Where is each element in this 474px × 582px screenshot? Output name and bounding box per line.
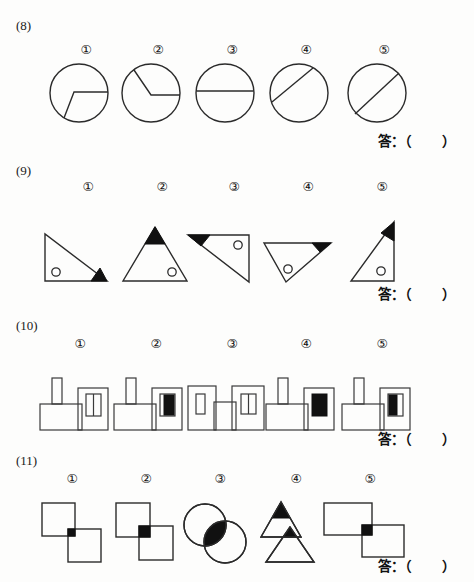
figure-factory-solid-black-window xyxy=(264,372,336,432)
figure-right-triangle-black-bottom-right xyxy=(42,231,110,285)
option-number: ② xyxy=(136,473,156,486)
figure-circle-bent-chord xyxy=(48,62,110,124)
section-label-10: (10) xyxy=(16,318,38,334)
option-number: ① xyxy=(76,44,96,57)
section-label-9: (9) xyxy=(16,163,31,179)
figure-circle-horizontal-diameter xyxy=(194,62,256,124)
option-number: ⑤ xyxy=(374,44,394,57)
figure-factory-white-black-panes xyxy=(112,372,184,432)
section-label-11: (11) xyxy=(16,453,37,469)
figure-isosceles-black-apex xyxy=(120,223,190,285)
figure-two-circles-overlap xyxy=(182,501,248,565)
option-number: ④ xyxy=(286,473,306,486)
option-number: ② xyxy=(152,181,172,194)
figure-right-triangle-black-top-left xyxy=(186,231,252,285)
figure-circle-chord-diagonal xyxy=(268,62,330,124)
option-number: ④ xyxy=(296,44,316,57)
option-number: ③ xyxy=(210,473,230,486)
option-number: ⑤ xyxy=(372,181,392,194)
option-number: ① xyxy=(62,473,82,486)
options-row-8: ① ② ③ xyxy=(0,44,474,136)
figure-two-rectangles-overlap xyxy=(322,501,406,561)
question-section-9: (9) ① ② xyxy=(0,155,474,319)
figure-factory-no-chimney xyxy=(186,372,266,432)
question-section-11: (11) ① ② xyxy=(0,445,474,582)
figure-factory-black-white-panes xyxy=(340,372,412,432)
option-number: ③ xyxy=(222,338,242,351)
option-number: ① xyxy=(70,338,90,351)
option-number: ⑤ xyxy=(372,338,392,351)
answer-line-11[interactable]: 答：（ ） xyxy=(378,555,456,575)
worksheet-page: (8) ① ② xyxy=(0,0,474,582)
section-label-8: (8) xyxy=(16,18,31,34)
options-row-10: ① ② xyxy=(0,338,474,438)
figure-two-triangles-overlap xyxy=(258,499,322,565)
option-number: ③ xyxy=(222,44,242,57)
option-number: ② xyxy=(148,44,168,57)
figure-two-squares-large-overlap xyxy=(114,501,178,565)
answer-line-9[interactable]: 答：（ ） xyxy=(378,283,456,303)
figure-two-squares-small-overlap xyxy=(40,501,104,565)
options-row-9: ① ② xyxy=(0,181,474,289)
option-number: ④ xyxy=(298,181,318,194)
figure-right-triangle-black-top xyxy=(348,219,404,285)
option-number: ⑤ xyxy=(360,473,380,486)
option-number: ② xyxy=(146,338,166,351)
figure-factory-two-white-panes xyxy=(38,372,110,432)
figure-circle-two-radii xyxy=(120,62,182,124)
answer-line-8[interactable]: 答：（ ） xyxy=(378,130,456,150)
figure-circle-diagonal-diameter xyxy=(346,62,408,124)
option-number: ③ xyxy=(224,181,244,194)
option-number: ① xyxy=(78,181,98,194)
question-section-8: (8) ① ② xyxy=(0,0,474,166)
option-number: ④ xyxy=(296,338,316,351)
figure-triangle-down-black-right xyxy=(262,239,334,285)
